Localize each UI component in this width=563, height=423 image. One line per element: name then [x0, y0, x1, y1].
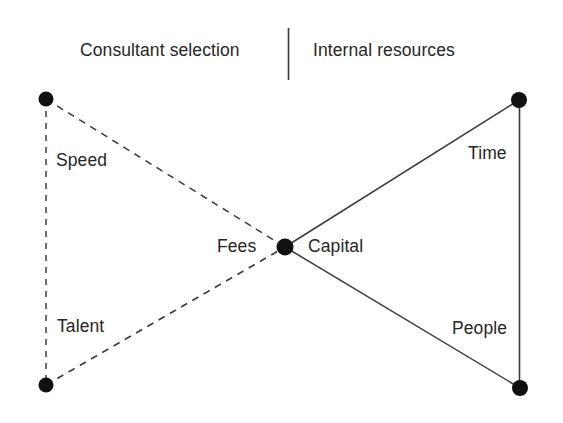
node-bottom-left [39, 378, 54, 393]
node-label-fees: Fees [217, 238, 256, 256]
node-top-left [39, 92, 54, 107]
header-consultant-selection: Consultant selection [80, 42, 240, 60]
node-center [277, 239, 294, 256]
node-bottom-right [512, 380, 528, 396]
diagram-canvas: Consultant selection Internal resources … [0, 0, 563, 423]
node-top-right [511, 92, 527, 108]
edge-label-speed: Speed [56, 152, 107, 170]
edge-label-time: Time [468, 145, 507, 163]
node-label-capital: Capital [308, 238, 363, 256]
edge-label-talent: Talent [57, 318, 104, 336]
header-internal-resources: Internal resources [313, 42, 455, 60]
edge-time [285, 100, 519, 247]
edge-speed [46, 99, 285, 247]
edge-label-people: People [452, 320, 507, 338]
diagram-graphics [0, 0, 563, 423]
